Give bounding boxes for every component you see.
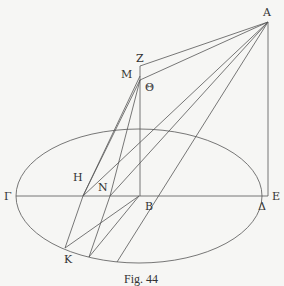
figure-caption: Fig. 44 [124, 272, 158, 286]
label-theta: Θ [145, 81, 154, 94]
label-h: H [73, 171, 83, 184]
label-m: M [121, 68, 132, 81]
label-z: Z [136, 52, 144, 65]
label-b: B [145, 200, 153, 213]
label-k: K [64, 253, 73, 266]
line-theta-n [110, 80, 140, 196]
figure-44-diagram: A Z M Θ H N Γ B E Δ K Fig. 44 [0, 0, 284, 286]
line-n-bottom [89, 196, 110, 257]
label-a: A [262, 6, 272, 19]
line-b-k [65, 196, 139, 248]
line-a-theta [140, 22, 268, 80]
label-gamma: Γ [4, 190, 12, 203]
line-a-z [140, 22, 268, 66]
line-b-bottom [89, 196, 139, 257]
label-e: E [272, 190, 280, 203]
label-delta: Δ [258, 200, 266, 213]
line-theta-h [83, 80, 140, 196]
line-h-k [65, 196, 83, 248]
label-n: N [98, 181, 108, 194]
line-a-n [110, 22, 268, 196]
line-a-h [83, 22, 268, 196]
